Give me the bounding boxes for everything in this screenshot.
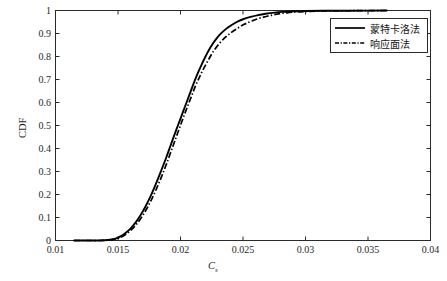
y-tick-label: 0.9 — [12, 29, 51, 39]
x-axis-title: Cs — [208, 261, 218, 274]
figure-canvas: 00.10.20.30.40.50.60.70.80.91 0.010.0150… — [0, 0, 447, 281]
legend-item-monte-carlo: 蒙特卡洛法 — [335, 21, 420, 35]
x-tick-label: 0.015 — [95, 245, 141, 255]
x-tick-label: 0.01 — [33, 245, 79, 255]
legend-dashdot-line-icon — [335, 38, 365, 48]
legend: 蒙特卡洛法 响应面法 — [330, 18, 428, 53]
y-tick-label: 0.7 — [12, 75, 51, 85]
legend-item-response-surface: 响应面法 — [335, 36, 410, 50]
y-tick-label: 1 — [12, 6, 51, 16]
x-tick-label: 0.02 — [158, 245, 204, 255]
y-tick-label: 0.2 — [12, 190, 51, 200]
x-axis-title-main: C — [208, 260, 215, 271]
legend-label-response-surface: 响应面法 — [370, 36, 410, 51]
y-tick-label: 0.3 — [12, 167, 51, 177]
legend-label-monte-carlo: 蒙特卡洛法 — [370, 21, 420, 36]
y-tick-label: 0.6 — [12, 98, 51, 108]
x-tick-label: 0.04 — [408, 245, 447, 255]
x-tick-label: 0.035 — [345, 245, 391, 255]
y-tick-label: 0.1 — [12, 213, 51, 223]
y-tick-label: 0.8 — [12, 52, 51, 62]
legend-solid-line-icon — [335, 23, 365, 33]
y-axis-title: CDF — [18, 118, 29, 138]
y-tick-label: 0.4 — [12, 144, 51, 154]
x-tick-label: 0.03 — [283, 245, 329, 255]
x-axis-title-subscript: s — [215, 266, 218, 274]
x-tick-label: 0.025 — [220, 245, 266, 255]
